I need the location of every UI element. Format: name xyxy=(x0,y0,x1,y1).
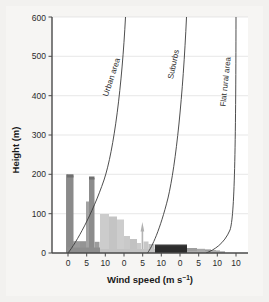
y-tick-label-400: 400 xyxy=(32,91,46,101)
x-tick-label-p3-10: 10 xyxy=(213,258,223,268)
figure-container: 0 100 200 300 400 500 600 0 5 10 0 5 10 … xyxy=(0,0,269,302)
x-tick-label-p1-0: 0 xyxy=(66,258,71,268)
x-tick-label-p1-10: 10 xyxy=(101,258,111,268)
x-tick-label-p3-5: 5 xyxy=(196,258,201,268)
x-tick-label-p3-0: 0 xyxy=(178,258,183,268)
x-tick-label-p2-0: 0 xyxy=(122,258,127,268)
x-tick-label-p2-5: 5 xyxy=(140,258,145,268)
y-tick-label-500: 500 xyxy=(32,51,46,61)
y-tick-label-0: 0 xyxy=(41,248,46,258)
y-tick-label-100: 100 xyxy=(32,209,46,219)
x-tick-label-p2-10: 10 xyxy=(157,258,167,268)
x-axis-title-main: Wind speed (m s xyxy=(107,274,182,285)
x-tick-label-p1-5: 5 xyxy=(84,258,89,268)
y-tick-label-200: 200 xyxy=(32,169,46,179)
y-tick-label-600: 600 xyxy=(32,13,46,23)
y-axis-title: Height (m) xyxy=(10,127,21,174)
y-tick-label-300: 300 xyxy=(32,130,46,140)
wind-profile-chart: 0 100 200 300 400 500 600 0 5 10 0 5 10 … xyxy=(0,0,269,302)
x-axis-title-close: ) xyxy=(190,274,193,285)
x-tick-label-p3-10b: 10 xyxy=(231,258,241,268)
x-axis-title: Wind speed (m s−1) xyxy=(107,274,193,286)
